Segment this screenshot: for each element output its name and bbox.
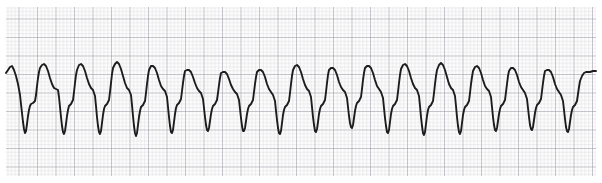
ecg-rhythm-strip [0, 0, 602, 183]
ecg-trace [0, 0, 602, 183]
ecg-waveform-path [6, 62, 596, 136]
